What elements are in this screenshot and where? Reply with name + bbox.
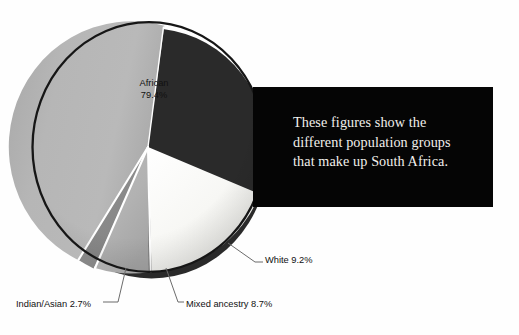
chart-page: African 79.4% White 9.2% Mixed ancestry … bbox=[0, 0, 519, 335]
callout-box: These figures show the different populat… bbox=[253, 87, 493, 207]
slice-label-african: African 79.4% bbox=[119, 78, 189, 101]
leader-line-white bbox=[228, 243, 263, 262]
slice-label-white: White 9.2% bbox=[265, 255, 313, 267]
pie-chart: African 79.4% White 9.2% Mixed ancestry … bbox=[0, 0, 519, 335]
callout-line-2: different population groups bbox=[293, 133, 483, 153]
slice-label-african-name: African bbox=[119, 78, 189, 90]
slice-label-mixed: Mixed ancestry 8.7% bbox=[186, 299, 272, 311]
slice-label-african-percent: 79.4% bbox=[119, 90, 189, 102]
callout-line-3: that make up South Africa. bbox=[293, 152, 483, 172]
callout-line-1: These figures show the bbox=[293, 113, 483, 133]
slice-label-indian: Indian/Asian 2.7% bbox=[16, 299, 91, 311]
pie-rim-shading bbox=[33, 22, 266, 272]
callout-text: These figures show the different populat… bbox=[293, 113, 483, 172]
